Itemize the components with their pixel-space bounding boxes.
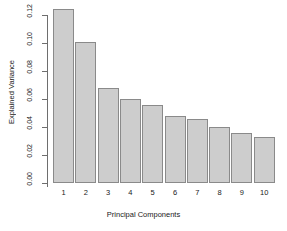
y-axis-tick-label-wrap: 0.08 — [24, 71, 40, 72]
y-axis-tick-label-wrap: 0.02 — [24, 155, 40, 156]
bar — [165, 116, 186, 183]
y-axis-tick — [42, 183, 47, 184]
y-axis-tick-label: 0.02 — [26, 144, 33, 158]
x-axis-line — [47, 183, 48, 187]
x-axis-tick-label: 4 — [120, 189, 141, 197]
x-axis-tick-label: 1 — [53, 189, 74, 197]
y-axis-tick-label-wrap: 0.10 — [24, 43, 40, 44]
y-axis-tick-label-wrap: 0.00 — [24, 183, 40, 184]
bar — [142, 105, 163, 183]
x-axis-tick-label: 2 — [75, 189, 96, 197]
y-axis-tick-label: 0.04 — [26, 116, 33, 130]
bar — [231, 133, 252, 183]
chart-plot-area: 0.000.020.040.060.080.100.12 12345678910 — [0, 0, 287, 231]
bar — [187, 119, 208, 183]
y-axis-tick-label: 0.08 — [26, 60, 33, 74]
bar — [75, 42, 96, 183]
y-axis-tick — [42, 71, 47, 72]
y-axis-tick — [42, 155, 47, 156]
y-axis-tick-label-wrap: 0.12 — [24, 15, 40, 16]
bar — [53, 9, 74, 183]
x-axis-tick-label: 6 — [165, 189, 186, 197]
bar — [120, 99, 141, 183]
x-axis-tick-label: 7 — [187, 189, 208, 197]
x-axis-tick-label: 3 — [98, 189, 119, 197]
y-axis-tick — [42, 43, 47, 44]
x-axis-tick-label: 9 — [231, 189, 252, 197]
y-axis-tick-label-wrap: 0.04 — [24, 127, 40, 128]
x-axis-tick-label: 5 — [142, 189, 163, 197]
y-axis-tick-label-wrap: 0.06 — [24, 99, 40, 100]
x-axis-tick-label: 8 — [209, 189, 230, 197]
bar — [98, 88, 119, 183]
bar — [209, 127, 230, 183]
x-axis-tick-label: 10 — [254, 189, 275, 197]
bar — [254, 137, 275, 183]
y-axis-tick-label: 0.06 — [26, 88, 33, 102]
y-axis-tick-label: 0.10 — [26, 32, 33, 46]
x-axis-title: Principal Components — [0, 210, 287, 219]
y-axis-tick-label: 0.00 — [26, 172, 33, 186]
y-axis-tick — [42, 127, 47, 128]
y-axis-line — [47, 15, 48, 183]
y-axis-tick — [42, 99, 47, 100]
scree-plot-screenshot: 0.000.020.040.060.080.100.12 12345678910… — [0, 0, 287, 231]
y-axis-title: Explained Variance — [7, 60, 19, 124]
y-axis-tick — [42, 15, 47, 16]
y-axis-tick-label: 0.12 — [26, 4, 33, 18]
